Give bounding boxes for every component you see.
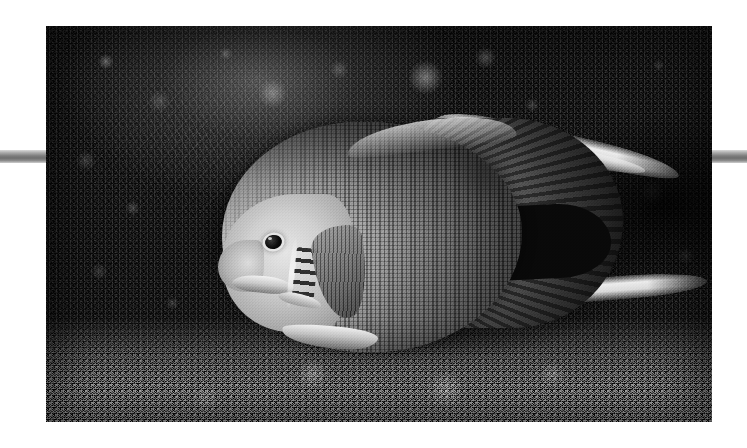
rear-body-blotch xyxy=(454,144,516,200)
right-rule-bar xyxy=(711,150,747,163)
grey-angelfish xyxy=(46,26,712,422)
underwater-photograph xyxy=(46,26,712,422)
fish-eye-glint xyxy=(268,237,272,240)
left-rule-bar xyxy=(0,150,47,163)
page-canvas xyxy=(0,0,747,448)
